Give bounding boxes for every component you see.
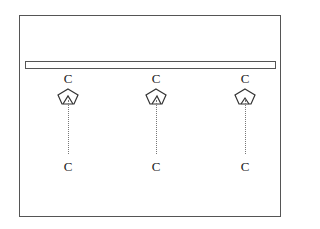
dotted-connector	[245, 100, 246, 154]
column-2: C C	[136, 0, 176, 229]
column-3: C C	[225, 0, 265, 229]
bottom-label: C	[136, 160, 176, 173]
bottom-label: C	[225, 160, 265, 173]
top-label: C	[225, 72, 265, 85]
top-label: C	[48, 72, 88, 85]
top-label: C	[136, 72, 176, 85]
dotted-connector	[68, 100, 69, 154]
dotted-connector	[156, 100, 157, 154]
column-1: C C	[48, 0, 88, 229]
bottom-label: C	[48, 160, 88, 173]
